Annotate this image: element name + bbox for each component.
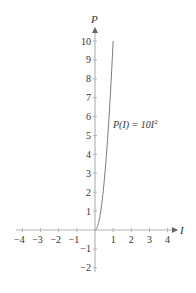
y-tick-label: 3 (86, 168, 91, 179)
y-tick-label: 2 (86, 187, 91, 198)
y-tick-label: 10 (81, 36, 91, 47)
x-tick-label: −1 (69, 234, 80, 245)
x-tick-label: −4 (14, 234, 25, 245)
y-tick-label: 1 (86, 206, 91, 217)
x-tick-label: 1 (111, 234, 116, 245)
curve-annotation-text: P(I) = 10I (112, 119, 155, 131)
y-axis-label: P (90, 13, 98, 25)
curve-p-of-i (95, 41, 113, 230)
y-tick-label: 8 (86, 73, 91, 84)
x-tick-label: 4 (165, 234, 170, 245)
chart-canvas: −4−3−2−11234 −2−112345678910 I P P(I) = … (0, 0, 196, 293)
y-tick-label: 5 (86, 130, 91, 141)
curve-annotation-exponent: 2 (154, 118, 158, 126)
y-tick-label: 7 (86, 92, 91, 103)
y-tick-label: −1 (80, 243, 91, 254)
y-tick-label: 6 (86, 111, 91, 122)
x-tick-label: −2 (50, 234, 61, 245)
y-tick-label: −2 (80, 262, 91, 273)
y-tick-label: 9 (86, 54, 91, 65)
x-tick-label: −3 (32, 234, 43, 245)
x-tick-label: 3 (147, 234, 152, 245)
curve-annotation: P(I) = 10I2 (112, 118, 158, 131)
x-axis-label: I (179, 224, 185, 236)
x-tick-label: 2 (129, 234, 134, 245)
y-tick-label: 4 (86, 149, 91, 160)
